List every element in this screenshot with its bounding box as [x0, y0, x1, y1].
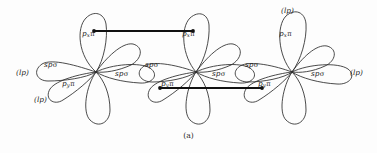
label-sp-sigma-6-sigma: σ	[320, 70, 325, 78]
label-sp-sigma-3-base: sp	[145, 60, 154, 69]
label-sp-sigma-4-base: sp	[212, 69, 221, 78]
label-px-pi-middle: pxπ	[182, 30, 195, 39]
lone-pair-label-far-left: (lp)	[16, 68, 29, 77]
label-sp-sigma-2: spσ	[115, 70, 128, 78]
label-px-pi-left-pi: π	[90, 30, 95, 38]
label-py-pi-middle: pyπ	[161, 80, 174, 89]
label-py-pi-right-pi: π	[266, 80, 271, 88]
middle-atom-upper-right-lobe	[196, 44, 240, 72]
label-sp-sigma-2-sigma: σ	[124, 70, 129, 78]
label-sp-sigma-6-base: sp	[311, 69, 320, 78]
label-py-pi-left-pi: π	[70, 80, 75, 88]
right-atom-px-pi-down-lobe	[282, 72, 306, 124]
lone-pair-label-top-right: (lp)	[281, 6, 294, 15]
lone-pair-label-lower-left: (lp)	[34, 95, 47, 104]
label-sp-sigma-6: spσ	[311, 70, 324, 78]
label-px-pi-right-pi: π	[287, 30, 292, 38]
label-sp-sigma-1: spσ	[44, 61, 57, 69]
label-px-pi-right: pxπ	[279, 30, 292, 39]
lone-pair-label-far-right: (lp)	[350, 68, 363, 77]
label-sp-sigma-5-base: sp	[245, 60, 254, 69]
label-sp-sigma-1-base: sp	[44, 60, 53, 69]
middle-atom-px-pi-up-lobe	[184, 14, 209, 72]
label-px-pi-middle-pi: π	[190, 30, 195, 38]
label-sp-sigma-3: spσ	[145, 61, 158, 69]
label-sp-sigma-5: spσ	[245, 61, 258, 69]
label-sp-sigma-3-sigma: σ	[154, 61, 159, 69]
label-py-pi-left: pyπ	[62, 80, 75, 89]
label-sp-sigma-1-sigma: σ	[53, 61, 58, 69]
middle-atom-px-pi-down-lobe	[186, 72, 210, 124]
pi-bond-upper	[92, 29, 195, 33]
right-atom-px-pi-up-lobe	[280, 12, 306, 72]
orbital-diagram-figure: pxπ pxπ pxπ pyπ pyπ pyπ spσ spσ spσ spσ …	[0, 0, 377, 153]
label-sp-sigma-5-sigma: σ	[254, 61, 259, 69]
label-sp-sigma-2-base: sp	[115, 69, 124, 78]
label-py-pi-right: pyπ	[258, 80, 271, 89]
figure-caption: (a)	[0, 131, 377, 140]
label-px-pi-left: pxπ	[82, 30, 95, 39]
label-sp-sigma-4-sigma: σ	[221, 70, 226, 78]
label-sp-sigma-4: spσ	[212, 70, 225, 78]
label-py-pi-middle-pi: π	[169, 80, 174, 88]
